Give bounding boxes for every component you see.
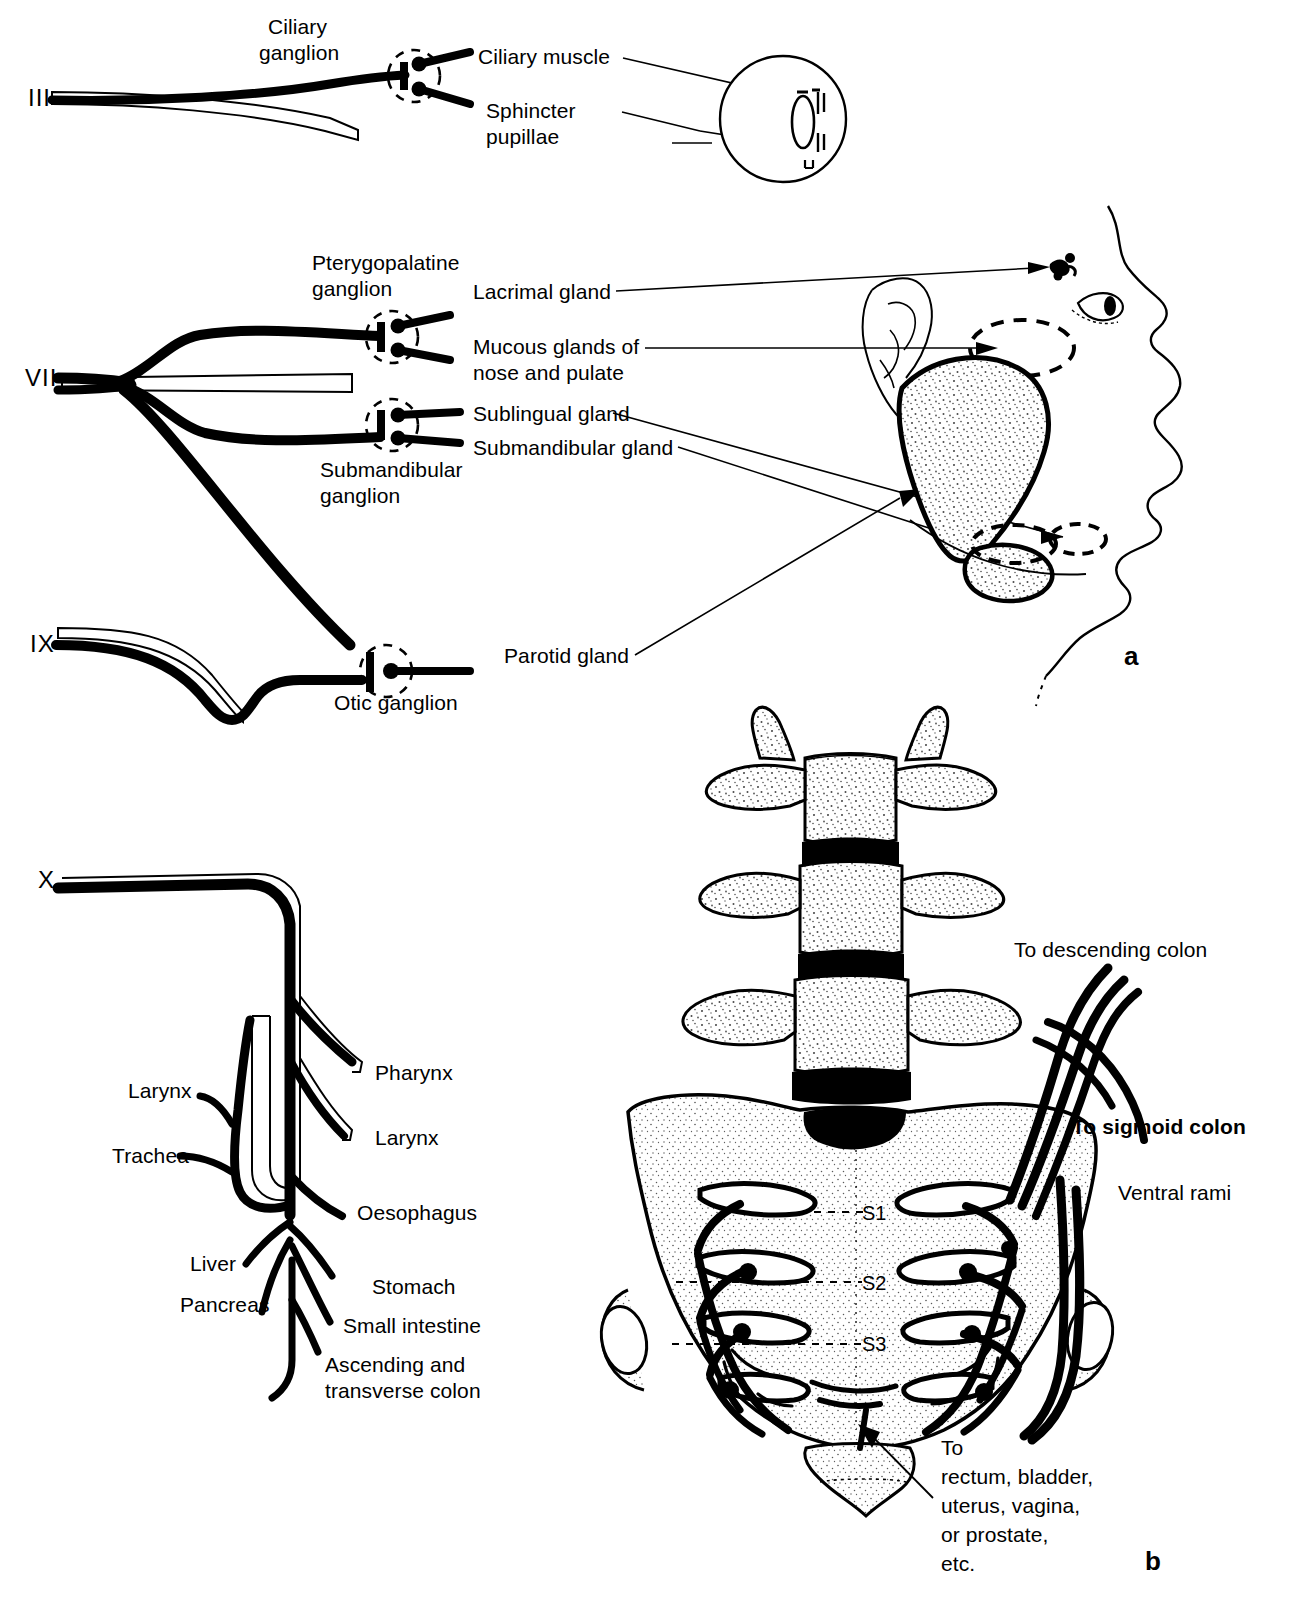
- label-to-sigmoid-colon: To sigmoid colon: [1072, 1114, 1246, 1140]
- arrowhead-mucous: [976, 342, 998, 355]
- label-ciliary-ganglion-line1: Ciliary: [268, 14, 327, 40]
- label-parotid-gland: Parotid gland: [504, 643, 629, 669]
- label-larynx-right: Larynx: [375, 1125, 439, 1151]
- label-pelvic-targets-line3: uterus, vagina,: [941, 1493, 1080, 1519]
- lumbar-vertebrae: [683, 707, 1020, 1104]
- label-pelvic-targets-line2: rectum, bladder,: [941, 1464, 1093, 1490]
- label-to-descending-colon: To descending colon: [1014, 937, 1207, 963]
- label-mucous-glands-line1: Mucous glands of: [473, 334, 639, 360]
- label-sublingual-gland: Sublingual gland: [473, 401, 630, 427]
- label-sphincter-pupillae-line1: Sphincter: [486, 98, 576, 124]
- label-trachea: Trachea: [112, 1143, 189, 1169]
- label-ciliary-ganglion-line2: ganglion: [259, 40, 339, 66]
- label-lacrimal-gland: Lacrimal gland: [473, 279, 611, 305]
- label-colon-line1: Ascending and: [325, 1352, 465, 1378]
- label-submandibular-gland: Submandibular gland: [473, 435, 673, 461]
- label-segment-s1: S1: [862, 1202, 886, 1225]
- label-sphincter-pupillae-line2: pupillae: [486, 124, 559, 150]
- label-colon-line2: transverse colon: [325, 1378, 481, 1404]
- label-small-intestine: Small intestine: [343, 1313, 481, 1339]
- label-mucous-glands-line2: nose and pulate: [473, 360, 624, 386]
- parotid-gland: [899, 358, 1048, 561]
- anatomy-artwork: [0, 0, 1290, 1620]
- arrowhead-lacrimal: [1028, 262, 1050, 274]
- nerve-numeral-ix: IX: [30, 630, 55, 658]
- sublingual-gland-outline-2: [1050, 524, 1106, 554]
- label-ciliary-muscle: Ciliary muscle: [478, 44, 610, 70]
- label-ventral-rami: Ventral rami: [1118, 1180, 1231, 1206]
- label-pelvic-targets-line1: To: [941, 1435, 963, 1461]
- label-pelvic-targets-line4: or prostate,: [941, 1522, 1048, 1548]
- label-submandibular-ganglion-line1: Submandibular: [320, 457, 463, 483]
- label-pancreas: Pancreas: [180, 1292, 270, 1318]
- label-segment-s2: S2: [862, 1272, 886, 1295]
- nerve-numeral-iii: III: [28, 84, 51, 112]
- nerve-numeral-vii: VII: [25, 364, 57, 392]
- lacrimal-gland: [1050, 253, 1076, 281]
- label-oesophagus: Oesophagus: [357, 1200, 477, 1226]
- label-segment-s3: S3: [862, 1333, 886, 1356]
- label-pelvic-targets-line5: etc.: [941, 1551, 975, 1577]
- label-otic-ganglion: Otic ganglion: [334, 690, 458, 716]
- panel-letter-b: b: [1145, 1546, 1161, 1577]
- figure-page: III VII IX X Ciliary ganglion Pterygopal…: [0, 0, 1290, 1620]
- label-stomach: Stomach: [372, 1274, 456, 1300]
- eyeball-diagram: [720, 56, 846, 182]
- label-pharynx: Pharynx: [375, 1060, 453, 1086]
- head-profile: [863, 206, 1182, 706]
- label-pterygopalatine-ganglion-line2: ganglion: [312, 276, 392, 302]
- label-larynx-left: Larynx: [128, 1078, 192, 1104]
- nerve-numeral-x: X: [38, 866, 55, 894]
- label-pterygopalatine-ganglion-line1: Pterygopalatine: [312, 250, 459, 276]
- label-submandibular-ganglion-line2: ganglion: [320, 483, 400, 509]
- label-liver: Liver: [190, 1251, 236, 1277]
- nerve-x-group: [58, 874, 362, 1398]
- panel-letter-a: a: [1124, 641, 1138, 672]
